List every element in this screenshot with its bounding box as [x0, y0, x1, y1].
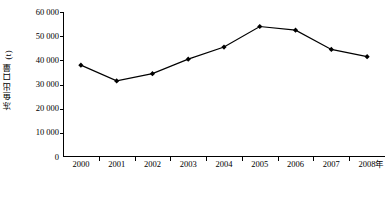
x-tick-label: 2006: [276, 160, 316, 169]
y-axis-title-label: 冻鱼出口量 (t): [4, 50, 13, 110]
data-point-marker: [78, 63, 83, 68]
y-tick-label: 0: [13, 153, 59, 162]
x-tick-label: 2005: [240, 160, 280, 169]
x-tick-label: 2004: [204, 160, 244, 169]
x-tick-label: 2007: [311, 160, 351, 169]
y-tick-label: 50 000: [13, 32, 59, 41]
y-tick-mark: [60, 109, 64, 110]
data-series-frozen-fish-export: [63, 12, 385, 157]
data-point-marker: [329, 47, 334, 52]
y-tick-label: 40 000: [13, 56, 59, 65]
x-tick-label: 2003: [168, 160, 208, 169]
y-tick-label: 20 000: [13, 104, 59, 113]
x-tick-label: 2002: [132, 160, 172, 169]
plot-area: [63, 12, 385, 157]
data-point-marker: [221, 44, 226, 49]
y-tick-label: 60 000: [13, 8, 59, 17]
line-chart: 冻鱼出口量 (t) 010 00020 00030 00040 00050 00…: [0, 0, 391, 198]
y-tick-label: 30 000: [13, 80, 59, 89]
x-axis-tick-labels: 200020012002200320042005200620072008: [63, 160, 385, 180]
data-point-marker: [186, 57, 191, 62]
data-point-marker: [365, 54, 370, 59]
data-point-marker: [150, 71, 155, 76]
y-tick-mark: [60, 12, 64, 13]
y-tick-mark: [60, 36, 64, 37]
data-point-marker: [114, 78, 119, 83]
y-tick-label: 10 000: [13, 128, 59, 137]
series-line: [81, 27, 367, 81]
data-point-marker: [293, 28, 298, 33]
y-tick-mark: [60, 60, 64, 61]
y-axis-tick-labels: 010 00020 00030 00040 00050 00060 000: [13, 0, 59, 198]
y-tick-mark: [60, 85, 64, 86]
x-tick-label: 2000: [61, 160, 101, 169]
y-tick-mark: [60, 133, 64, 134]
x-axis-unit-label: 年: [375, 160, 384, 169]
x-tick-label: 2001: [97, 160, 137, 169]
data-point-marker: [257, 24, 262, 29]
